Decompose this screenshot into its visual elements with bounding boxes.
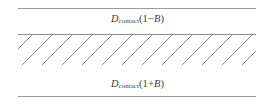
hatched-region — [18, 35, 256, 65]
hatch-lines — [18, 35, 256, 65]
upper-label-symbol: D — [111, 13, 119, 24]
lower-label: Dcontact(1+B) — [0, 78, 275, 89]
upper-label-subscript: contact — [119, 17, 139, 24]
contact-distance-diagram: Dcontact(1−B) — [0, 0, 275, 105]
lower-label-subscript: contact — [119, 82, 139, 89]
lower-label-close-paren: ) — [160, 78, 164, 89]
upper-label-close-paren: ) — [160, 13, 164, 24]
upper-bound-line — [18, 8, 256, 9]
lower-bound-line — [18, 96, 256, 97]
lower-label-symbol: D — [111, 78, 119, 89]
upper-label: Dcontact(1−B) — [0, 13, 275, 24]
